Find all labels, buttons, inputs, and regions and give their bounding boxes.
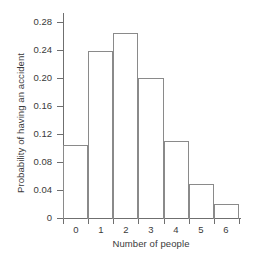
y-tick-label: 0.24 [16, 44, 52, 55]
y-tick-label: 0.04 [16, 184, 52, 195]
histogram-bar [138, 78, 163, 219]
histogram-bar [164, 141, 189, 219]
y-tick-label: 0 [16, 212, 52, 223]
x-tick [63, 219, 64, 224]
y-tick-label: 0.08 [16, 156, 52, 167]
x-tick-label: 4 [166, 224, 186, 235]
x-tick-label: 0 [66, 224, 86, 235]
histogram-bar [214, 204, 239, 219]
plot-area [63, 15, 239, 218]
x-tick-label: 1 [91, 224, 111, 235]
histogram-bar [113, 33, 138, 220]
x-tick-label: 2 [116, 224, 136, 235]
x-axis-label: Number of people [63, 238, 239, 249]
y-tick-label: 0.12 [16, 128, 52, 139]
histogram-bar [88, 51, 113, 219]
x-tick [239, 219, 240, 224]
x-tick [113, 219, 114, 224]
histogram-bar [189, 184, 214, 219]
x-tick [88, 219, 89, 224]
histogram-bar [63, 145, 88, 220]
x-tick [138, 219, 139, 224]
x-tick [164, 219, 165, 224]
y-tick-label: 0.20 [16, 72, 52, 83]
x-tick-label: 6 [216, 224, 236, 235]
x-tick-label: 5 [191, 224, 211, 235]
histogram-figure: Probability of having an accident 00.040… [0, 0, 256, 262]
x-tick-label: 3 [141, 224, 161, 235]
y-tick-label: 0.16 [16, 100, 52, 111]
y-tick-label: 0.28 [16, 16, 52, 27]
x-tick [189, 219, 190, 224]
x-tick [214, 219, 215, 224]
